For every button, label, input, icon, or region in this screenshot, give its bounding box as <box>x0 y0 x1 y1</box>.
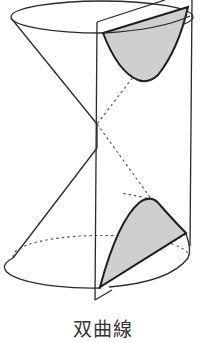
upper-cone-left-generator <box>11 18 97 124</box>
lower-ellipse-front <box>4 258 101 288</box>
figure-caption: 双曲線 <box>0 314 205 341</box>
upper-section-fill <box>103 7 188 81</box>
upper-hyperbola-branch <box>103 7 190 81</box>
lower-cone-left-generator <box>13 148 97 258</box>
lower-section-fill <box>100 199 186 287</box>
lower-cone-hidden-generator <box>97 124 152 200</box>
lower-hyperbola-branch <box>100 199 186 287</box>
plane-right-edge <box>190 0 192 246</box>
plane-bottom-edge <box>95 290 112 300</box>
hyperbola-conic-section-diagram <box>0 0 205 310</box>
plane-left-edge <box>95 22 97 300</box>
